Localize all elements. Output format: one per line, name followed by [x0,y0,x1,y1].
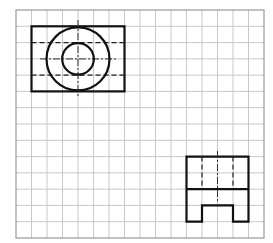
drawing-canvas [0,0,273,243]
grid-lines [16,10,264,238]
